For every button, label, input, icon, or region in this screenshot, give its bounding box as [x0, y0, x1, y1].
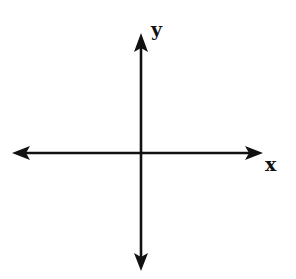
x-axis-label: x [265, 153, 277, 175]
coordinate-plane-diagram: y x [0, 0, 296, 279]
y-axis-label: y [150, 18, 163, 40]
